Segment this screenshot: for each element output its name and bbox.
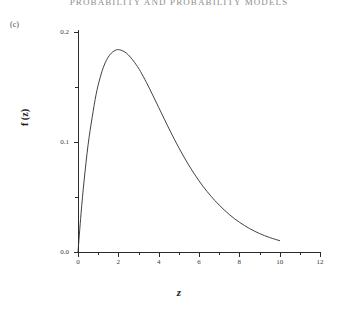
y-tick-minor: [75, 87, 78, 88]
x-tick: [320, 253, 321, 257]
x-tick-label: 0: [68, 258, 88, 266]
y-tick: [74, 32, 78, 33]
y-tick-minor: [75, 197, 78, 198]
y-axis-label: f (z): [19, 109, 30, 126]
y-tick-label: 0.1: [60, 138, 69, 146]
x-tick-label: 10: [270, 258, 290, 266]
x-tick-minor: [139, 253, 140, 255]
y-tick: [74, 142, 78, 143]
x-tick-label: 6: [189, 258, 209, 266]
x-tick-minor: [300, 253, 301, 255]
x-tick-label: 2: [108, 258, 128, 266]
running-head: PROBABILITY AND PROBABILITY MODELS: [0, 0, 358, 7]
x-tick: [199, 253, 200, 257]
x-tick: [239, 253, 240, 257]
x-tick-label: 12: [310, 258, 330, 266]
x-axis-label: z: [0, 286, 358, 298]
x-tick: [280, 253, 281, 257]
x-tick: [159, 253, 160, 257]
x-tick-label: 4: [149, 258, 169, 266]
x-tick: [118, 253, 119, 257]
x-tick-minor: [260, 253, 261, 255]
plot-area: [78, 32, 320, 252]
x-tick-minor: [98, 253, 99, 255]
x-tick-minor: [219, 253, 220, 255]
y-tick-label: 0.2: [60, 28, 69, 36]
x-tick-minor: [179, 253, 180, 255]
x-tick: [78, 253, 79, 257]
y-tick-label: 0.0: [60, 248, 69, 256]
x-tick-label: 8: [229, 258, 249, 266]
panel-label: (c): [10, 20, 19, 29]
